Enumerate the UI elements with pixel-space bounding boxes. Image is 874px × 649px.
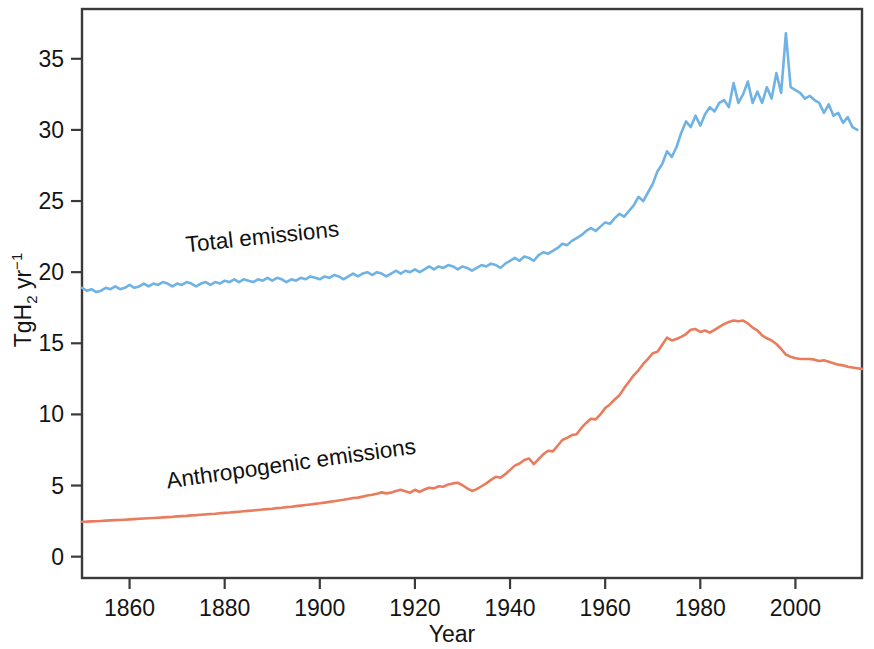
x-tick-label: 2000 [770,595,821,621]
y-tick-label: 35 [38,46,64,72]
y-tick-label: 20 [38,259,64,285]
x-tick-label: 1980 [675,595,726,621]
y-tick-label: 10 [38,401,64,427]
x-tick-label: 1940 [484,595,535,621]
x-axis-title: Year [429,621,476,647]
y-tick-label: 15 [38,330,64,356]
x-tick-label: 1960 [580,595,631,621]
y-tick-label: 5 [51,473,64,499]
x-tick-label: 1880 [199,595,250,621]
y-tick-label: 0 [51,544,64,570]
x-tick-label: 1920 [389,595,440,621]
figure-container: 05101520253035 1860188019001920194019601… [0,0,874,649]
y-tick-label: 30 [38,117,64,143]
x-tick-label: 1860 [104,595,155,621]
x-tick-label: 1900 [294,595,345,621]
emissions-line-chart: 05101520253035 1860188019001920194019601… [0,0,874,649]
y-tick-label: 25 [38,188,64,214]
